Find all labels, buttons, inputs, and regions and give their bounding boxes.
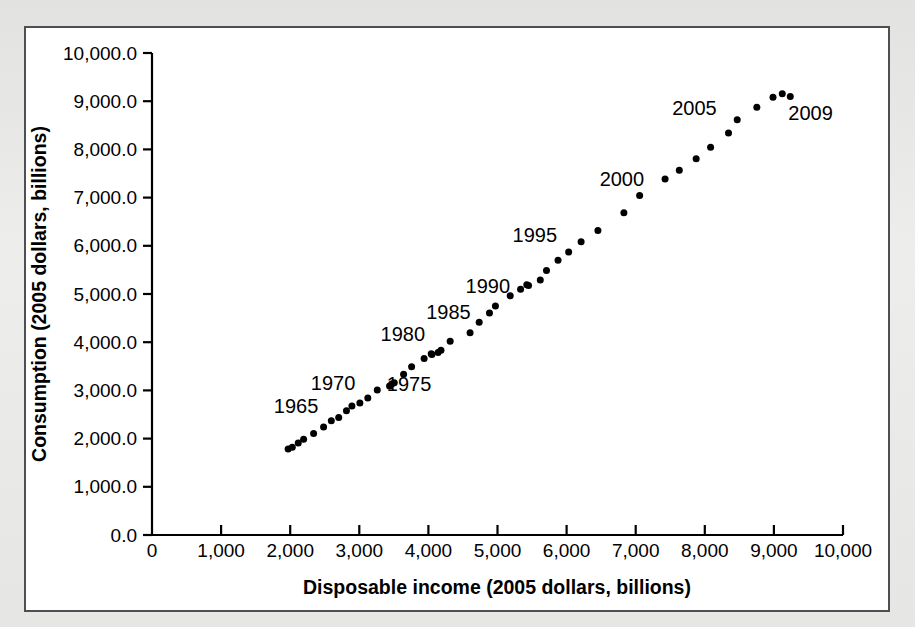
data-point [447, 338, 454, 345]
year-annotation: 2005 [672, 97, 717, 119]
year-annotation: 2009 [788, 102, 833, 124]
data-point [620, 209, 627, 216]
data-point [467, 329, 474, 336]
y-tick-label: 2,000.0 [74, 428, 137, 449]
y-tick-label: 0.0 [111, 525, 137, 546]
x-tick-label: 1,000 [197, 540, 245, 561]
y-tick-label: 6,000.0 [74, 235, 137, 256]
y-tick-group: 0.01,000.02,000.03,000.04,000.05,000.06,… [63, 43, 152, 546]
data-point [343, 407, 350, 414]
data-point [328, 417, 335, 424]
x-tick-label: 3,000 [336, 540, 384, 561]
data-point [753, 104, 760, 111]
scatter-plot: 01,0002,0003,0004,0005,0006,0007,0008,00… [0, 0, 915, 627]
data-point [408, 363, 415, 370]
x-tick-label: 9,000 [750, 540, 798, 561]
x-tick-label: 0 [147, 540, 158, 561]
x-tick-label: 8,000 [681, 540, 729, 561]
data-point [374, 387, 381, 394]
year-annotation: 1970 [311, 372, 356, 394]
data-point [707, 144, 714, 151]
year-annotation: 2000 [600, 168, 645, 190]
year-annotation: 1985 [426, 301, 471, 323]
x-tick-label: 5,000 [474, 540, 522, 561]
data-point [492, 303, 499, 310]
data-point [636, 192, 643, 199]
data-point [662, 175, 669, 182]
y-axis-title: Consumption (2005 dollars, billions) [28, 126, 50, 462]
data-point [421, 355, 428, 362]
x-tick-label: 6,000 [543, 540, 591, 561]
data-point [565, 249, 572, 256]
year-annotation: 1980 [381, 323, 426, 345]
year-annotations-group: 1965197019751980198519901995200020052009 [274, 97, 833, 417]
data-point [537, 276, 544, 283]
data-point [734, 116, 741, 123]
x-tick-label: 7,000 [612, 540, 660, 561]
data-point [594, 227, 601, 234]
data-point [676, 167, 683, 174]
data-point [578, 238, 585, 245]
year-annotation: 1990 [466, 275, 511, 297]
y-tick-label: 10,000.0 [63, 43, 137, 64]
data-point [555, 257, 562, 264]
figure-background: 01,0002,0003,0004,0005,0006,0007,0008,00… [0, 0, 915, 627]
data-point [428, 351, 435, 358]
data-point [310, 430, 317, 437]
data-point [348, 402, 355, 409]
y-tick-label: 8,000.0 [74, 139, 137, 160]
data-point [335, 414, 342, 421]
x-axis-title: Disposable income (2005 dollars, billion… [303, 576, 691, 598]
data-point [779, 90, 786, 97]
y-tick-label: 9,000.0 [74, 91, 137, 112]
y-tick-label: 1,000.0 [74, 476, 137, 497]
y-tick-label: 7,000.0 [74, 187, 137, 208]
data-point [693, 155, 700, 162]
data-point [517, 286, 524, 293]
data-point [486, 309, 493, 316]
data-point [525, 282, 532, 289]
data-point [787, 93, 794, 100]
y-tick-label: 3,000.0 [74, 380, 137, 401]
year-annotation: 1995 [513, 224, 558, 246]
data-point [476, 319, 483, 326]
x-tick-label: 10,000 [814, 540, 872, 561]
y-tick-label: 4,000.0 [74, 332, 137, 353]
data-point [770, 94, 777, 101]
data-point [320, 423, 327, 430]
data-point [437, 347, 444, 354]
data-point [356, 399, 363, 406]
x-tick-label: 2,000 [266, 540, 314, 561]
year-annotation: 1975 [387, 373, 432, 395]
data-point [289, 444, 296, 451]
year-annotation: 1965 [274, 395, 319, 417]
data-point [725, 130, 732, 137]
x-tick-group: 01,0002,0003,0004,0005,0006,0007,0008,00… [147, 525, 872, 561]
x-tick-label: 4,000 [405, 540, 453, 561]
data-point [543, 267, 550, 274]
y-tick-label: 5,000.0 [74, 284, 137, 305]
data-point [300, 436, 307, 443]
data-point [364, 395, 371, 402]
data-points-group [285, 90, 794, 452]
